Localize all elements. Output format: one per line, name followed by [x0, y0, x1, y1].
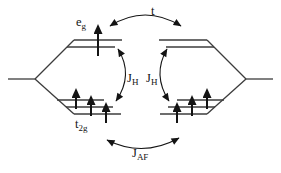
- left-splitting-diagonal-up: [35, 40, 74, 79]
- jh-label-right: JH: [146, 71, 158, 87]
- right-splitting-diagonal-up: [207, 40, 246, 79]
- jh-label-left: JH: [127, 71, 139, 87]
- t2g-level-label: t2g: [75, 117, 88, 133]
- coupling-arrows: [107, 15, 181, 149]
- hund-coupling-arrow-right: [160, 49, 169, 101]
- hopping-t-label: t: [151, 4, 155, 18]
- left-splitting-diagonal-down: [35, 79, 74, 114]
- right-ion-levels: [159, 40, 273, 114]
- superexchange-jaf-arrow: [107, 138, 179, 149]
- left-ion-levels: [8, 40, 122, 114]
- diagram-labels: eg t JH JH t2g JAF: [75, 4, 158, 162]
- double-exchange-energy-diagram: eg t JH JH t2g JAF: [0, 0, 281, 173]
- right-splitting-diagonal-down: [207, 79, 246, 114]
- diagram-canvas: eg t JH JH t2g JAF: [0, 0, 281, 173]
- eg-level-label: eg: [76, 15, 87, 31]
- hund-coupling-arrow-left: [116, 49, 126, 101]
- hopping-t-arrow: [110, 15, 181, 26]
